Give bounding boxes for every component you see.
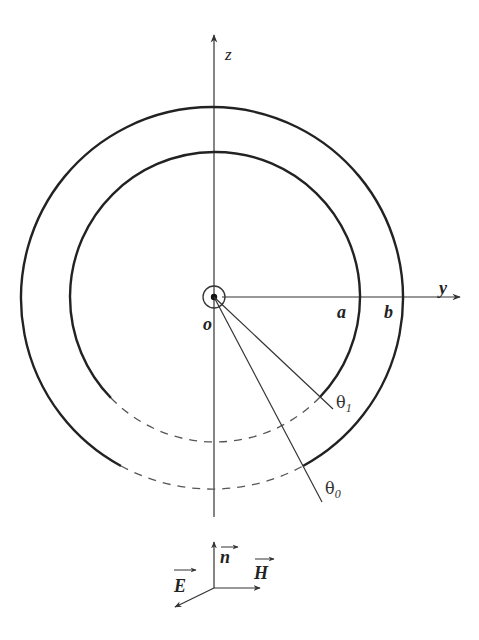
H-label: H xyxy=(253,563,269,583)
z-axis-label: z xyxy=(224,45,232,64)
theta0-label: θ0 xyxy=(325,479,341,501)
origin-label: o xyxy=(203,314,212,334)
y-axis-label: y xyxy=(437,278,448,298)
inner-sphere-dashed-arc xyxy=(111,397,320,442)
theta1-label: θ1 xyxy=(336,393,352,415)
theta0-line xyxy=(214,297,322,502)
inner-radius-label: a xyxy=(337,302,346,322)
outer-sphere-dashed-arc xyxy=(121,466,303,489)
outer-radius-label: b xyxy=(384,302,393,322)
n-label: n xyxy=(220,547,230,567)
theta1-line xyxy=(214,297,333,409)
diagram-canvas: z y o a b θ1 θ0 n H E xyxy=(0,0,479,640)
E-label: E xyxy=(173,576,186,596)
inner-sphere-arc xyxy=(70,152,360,398)
field-vectors-legend: n H E xyxy=(173,542,274,607)
